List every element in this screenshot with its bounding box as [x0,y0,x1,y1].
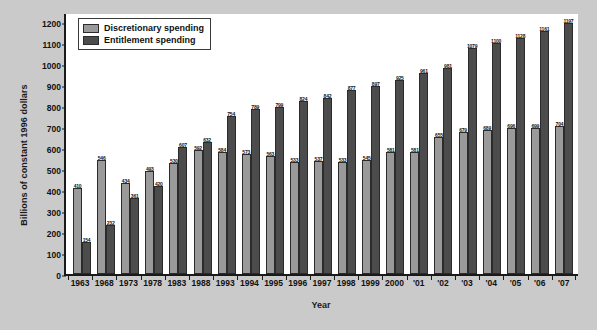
bar-group: 573789 [239,14,263,274]
x-axis-tick-label: 1995 [262,278,286,294]
x-axis-tick-label: 1999 [358,278,382,294]
plot-area: 0100200300400500600700800900100011001200… [64,14,578,276]
bar-group: 592632 [190,14,214,274]
bar-groups: 4101545462324343614934205306075926325847… [66,14,578,274]
bar-value-label: 232 [107,220,115,226]
bar-group: 6991161 [528,14,552,274]
bar-value-label: 897 [372,81,380,87]
bar-group: 6961128 [504,14,528,274]
bar-group: 530607 [166,14,190,274]
bar: 533 [338,162,347,274]
bar-value-label: 1100 [491,38,501,44]
bar-value-label: 789 [251,104,259,110]
bar-value-label: 546 [98,155,106,161]
bar: 573 [242,154,251,274]
x-axis-tick-label: 1996 [286,278,310,294]
bar: 607 [178,147,187,274]
bar: 581 [386,152,395,274]
bar-group: 563799 [263,14,287,274]
bar-value-label: 925 [396,75,404,81]
bar-value-label: 545 [363,155,371,161]
bar: 232 [106,225,115,274]
bar: 1161 [540,31,549,274]
bar-value-label: 581 [411,147,419,153]
x-axis-tick-label: '02 [431,278,455,294]
bar-value-label: 655 [435,132,443,138]
bar-value-label: 154 [83,237,91,243]
bar: 533 [290,162,299,274]
x-axis-tick-label: '06 [528,278,552,294]
bar-value-label: 563 [266,151,274,157]
bar-value-label: 1079 [467,43,477,49]
bar: 824 [299,101,308,274]
bar-group: 545897 [359,14,383,274]
bar-value-label: 607 [179,142,187,148]
bar-group: 584754 [215,14,239,274]
bar-value-label: 533 [339,157,347,163]
bar: 584 [218,152,227,274]
y-axis-tick-label: 200 [47,229,61,239]
legend-label-discretionary: Discretionary spending [104,23,204,33]
x-axis-tick-label: '04 [479,278,503,294]
bar: 679 [459,132,468,274]
bar: 1128 [516,38,525,274]
bar-value-label: 1128 [515,33,525,39]
bar-group: 581961 [407,14,431,274]
bar: 581 [410,152,419,274]
bar: 655 [434,137,443,274]
bar: 545 [362,160,371,274]
bar-value-label: 420 [155,181,163,187]
bar: 789 [251,109,260,274]
y-axis-tick-label: 1100 [43,40,61,50]
bar: 537 [314,161,323,274]
x-axis-tick-label: 1983 [165,278,189,294]
bar-value-label: 1197 [563,18,573,24]
bar-value-label: 704 [556,121,564,127]
bar: 1197 [564,23,573,274]
bar-value-label: 632 [203,137,211,143]
bar-value-label: 1161 [539,26,549,32]
bar-value-label: 842 [324,93,332,99]
x-axis-tick-label: 1973 [116,278,140,294]
x-axis-title: Year [64,300,578,310]
legend-item: Entitlement spending [83,34,204,46]
bar-value-label: 410 [74,183,82,189]
bar-value-label: 530 [170,158,178,164]
bar-value-label: 361 [131,193,139,199]
bar-value-label: 584 [218,147,226,153]
x-axis-tick-label: 1993 [213,278,237,294]
bar: 1079 [468,48,477,274]
bar-value-label: 533 [291,157,299,163]
bar-value-label: 699 [531,123,539,129]
bar: 925 [395,80,404,274]
bar-value-label: 754 [227,111,235,117]
bar: 754 [227,116,236,274]
legend-swatch-discretionary [83,24,99,33]
bar: 546 [97,160,106,274]
bar: 361 [130,198,139,274]
bar: 530 [169,163,178,274]
x-axis-tick-label: 1997 [310,278,334,294]
bar-group: 546232 [94,14,118,274]
bar-value-label: 689 [483,125,491,131]
x-axis-tick-label: 1988 [189,278,213,294]
bar: 842 [323,98,332,274]
x-axis-tick-label: '05 [503,278,527,294]
bar-group: 655981 [431,14,455,274]
bar: 493 [145,171,154,274]
legend-item: Discretionary spending [83,22,204,34]
bar-group: 6791079 [456,14,480,274]
y-axis-tick-label: 300 [47,208,61,218]
x-axis-tick-label: 2000 [382,278,406,294]
x-axis-tick-label: 1978 [141,278,165,294]
x-axis-tick-labels: 1963196819731978198319881993199419951996… [64,278,578,294]
bar-group: 410154 [70,14,94,274]
y-axis-tick-label: 900 [47,82,61,92]
bar: 410 [73,188,82,274]
bar-group: 434361 [118,14,142,274]
x-axis-tick-label: 1994 [237,278,261,294]
bar-value-label: 877 [348,85,356,91]
bar: 1100 [492,43,501,274]
bar-chart: Billions of constant 1996 dollars 010020… [0,0,597,330]
bar-value-label: 824 [300,96,308,102]
